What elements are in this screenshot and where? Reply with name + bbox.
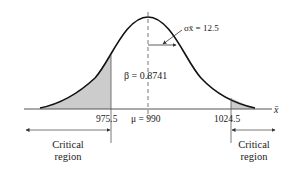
beta-label: β = 0.8741: [124, 70, 167, 81]
tick-mean: μ = 990: [131, 114, 161, 124]
normal-curve-diagram: x̄ σx̄ = 12.5 β = 0.8741 975.5 μ = 990 1…: [0, 0, 292, 174]
tick-1024-5: 1024.5: [214, 114, 240, 124]
bell-curve: [40, 17, 255, 108]
sigma-pointer-arrow: [163, 30, 182, 44]
left-tail-shade: [40, 55, 111, 109]
x-axis-label: x̄: [273, 104, 279, 115]
tick-975-5: 975.5: [96, 114, 118, 124]
left-region-label-line1: Critical: [52, 139, 84, 150]
right-region-label-line2: region: [241, 151, 269, 162]
left-region-label-line2: region: [55, 151, 83, 162]
right-region-label-line1: Critical: [238, 139, 270, 150]
sigma-label: σx̄ = 12.5: [184, 23, 219, 33]
